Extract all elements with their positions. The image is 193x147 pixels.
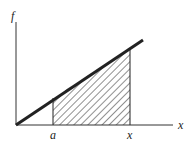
area-under-line-diagram: f x a x [0,0,193,147]
tick-label-x: x [126,128,133,142]
y-axis-label: f [11,9,16,23]
hatched-area [53,48,130,125]
x-axis-label: x [177,118,184,132]
tick-label-a: a [50,128,56,142]
